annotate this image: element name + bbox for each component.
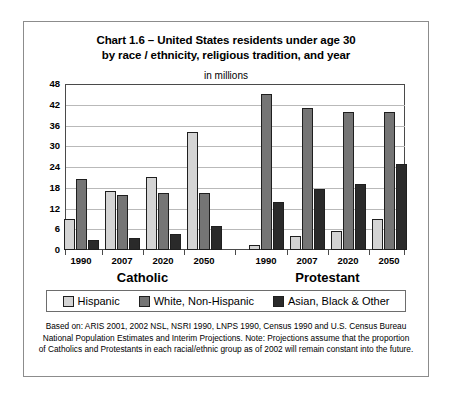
x-axis-year-label: 2007 (111, 256, 132, 266)
x-axis-year-label: 2007 (296, 256, 317, 266)
bar (355, 184, 366, 250)
bar (187, 132, 198, 250)
footnote-line: National Population Estimates and Interi… (32, 333, 420, 345)
y-axis-tick-label: 6 (55, 225, 60, 235)
bar (129, 238, 140, 250)
x-axis-tick (143, 250, 144, 255)
bar (302, 108, 313, 250)
x-axis-year-label: 2050 (193, 256, 214, 266)
legend-swatch-icon (63, 296, 74, 307)
legend-item[interactable]: White, Non-Hispanic (139, 296, 254, 307)
chart-title-line-1: Chart 1.6 – United States residents unde… (24, 33, 428, 48)
bar (372, 219, 383, 250)
bar (105, 191, 116, 250)
x-axis-year-labels: 19902007202020501990200720202050 (65, 256, 405, 270)
x-axis-year-label: 1990 (70, 256, 91, 266)
chart-legend: HispanicWhite, Non-HispanicAsian, Black … (46, 290, 406, 312)
legend-label: Hispanic (78, 296, 120, 307)
bar-cluster (248, 84, 284, 250)
bar-cluster (186, 84, 222, 250)
bar (396, 164, 407, 250)
x-axis-tick (235, 250, 236, 255)
y-axis-tick-label: 42 (49, 100, 60, 110)
bar (331, 231, 342, 250)
x-axis-year-label: 2020 (152, 256, 173, 266)
x-axis-tick (287, 250, 288, 255)
bar-cluster (330, 84, 366, 250)
plot-area: 4842363024181260 19902007202020501990200… (24, 84, 428, 290)
x-axis-year-label: 1990 (255, 256, 276, 266)
y-axis-tick-label: 18 (49, 183, 60, 193)
bar (273, 202, 284, 250)
chart-title-block: Chart 1.6 – United States residents unde… (24, 22, 428, 82)
bar (88, 240, 99, 250)
bar (384, 112, 395, 250)
bar (290, 236, 301, 250)
bar (314, 189, 325, 250)
y-axis-tick-label: 48 (49, 79, 60, 89)
chart-figure: Chart 1.6 – United States residents unde… (23, 21, 429, 377)
chart-title-line-2: by race / ethnicity, religious tradition… (24, 48, 428, 63)
chart-subtitle: in millions (24, 70, 428, 82)
x-axis-tick (369, 250, 370, 255)
legend-label: White, Non-Hispanic (154, 296, 254, 307)
y-axis-tick-label: 0 (55, 245, 60, 255)
y-axis-tick-label: 30 (49, 142, 60, 152)
bar-cluster (63, 84, 99, 250)
x-axis-group-label: Catholic (117, 271, 168, 284)
legend-item[interactable]: Hispanic (63, 296, 120, 307)
legend-swatch-icon (139, 296, 150, 307)
x-axis-year-label: 2050 (378, 256, 399, 266)
x-axis-tick (102, 250, 103, 255)
bar-cluster (145, 84, 181, 250)
bar (158, 193, 169, 250)
y-axis-tick-label: 12 (49, 204, 60, 214)
x-axis-year-label: 2020 (337, 256, 358, 266)
bar (261, 94, 272, 250)
x-axis-tick (404, 250, 405, 255)
bars-layer (65, 84, 405, 250)
chart-footnote: Based on: ARIS 2001, 2002 NSL, NSRI 1990… (32, 321, 420, 356)
bar-cluster (371, 84, 407, 250)
bar (211, 226, 222, 250)
x-axis-group-label: Protestant (295, 271, 359, 284)
bar (64, 219, 75, 250)
x-axis-tick (65, 250, 66, 255)
legend-swatch-icon (273, 296, 284, 307)
bar (199, 193, 210, 250)
bar (117, 195, 128, 250)
bar-cluster (104, 84, 140, 250)
x-axis-group-labels: CatholicProtestant (65, 271, 405, 289)
y-axis-tick-label: 36 (49, 121, 60, 131)
bar (146, 177, 157, 250)
bar (343, 112, 354, 250)
legend-item[interactable]: Asian, Black & Other (273, 296, 390, 307)
y-axis-tick-label: 24 (49, 162, 60, 172)
footnote-line: Based on: ARIS 2001, 2002 NSL, NSRI 1990… (32, 321, 420, 333)
x-axis-tick (328, 250, 329, 255)
bar-cluster (289, 84, 325, 250)
x-axis-tick (184, 250, 185, 255)
bar (170, 234, 181, 250)
bar (76, 179, 87, 250)
legend-label: Asian, Black & Other (288, 296, 390, 307)
y-axis-labels: 4842363024181260 (24, 84, 64, 250)
footnote-line: of Catholics and Protestants in each rac… (32, 344, 420, 356)
